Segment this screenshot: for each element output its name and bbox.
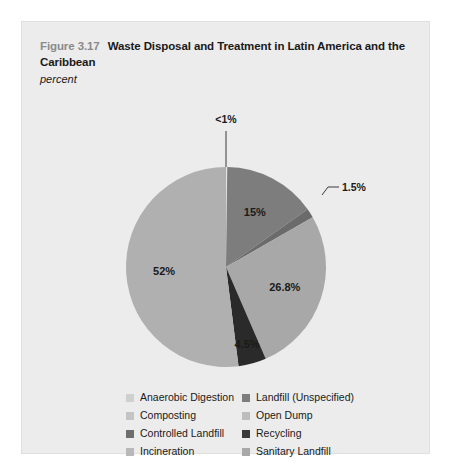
- leader-line-open-dump: [322, 187, 339, 195]
- legend-item-landfill-unspecified[interactable]: Landfill (Unspecified): [242, 390, 374, 405]
- legend-item-sanitary-landfill[interactable]: Sanitary Landfill: [242, 444, 374, 459]
- pie-slice-composting: [126, 167, 239, 367]
- figure-title-line: Figure 3.17Waste Disposal and Treatment …: [40, 38, 412, 70]
- legend-swatch-icon: [126, 448, 134, 456]
- pie-label-recycling: 4.5%: [235, 338, 260, 350]
- pie-chart: 15%26.8%4.5%52% <1% 1.5%: [22, 84, 429, 384]
- figure-number: Figure 3.17: [40, 40, 100, 52]
- legend-item-label: Controlled Landfill: [140, 426, 224, 441]
- legend-swatch-icon: [242, 448, 250, 456]
- figure-panel: Figure 3.17Waste Disposal and Treatment …: [21, 21, 430, 454]
- legend-item-incineration[interactable]: Incineration: [126, 444, 242, 459]
- legend-item-label: Open Dump: [256, 408, 313, 423]
- pie-label-landfill-unspecified: 15%: [244, 206, 266, 218]
- callout-label-anaerobic: <1%: [215, 113, 237, 125]
- pie-label-composting: 52%: [153, 265, 175, 277]
- legend-column-left: Anaerobic DigestionCompostingControlled …: [126, 390, 242, 462]
- legend-item-composting[interactable]: Composting: [126, 408, 242, 423]
- legend-swatch-icon: [126, 394, 134, 402]
- callout-label-open-dump: 1.5%: [342, 181, 367, 193]
- legend: Anaerobic DigestionCompostingControlled …: [126, 390, 376, 462]
- legend-item-open-dump[interactable]: Open Dump: [242, 408, 374, 423]
- legend-item-label: Incineration: [140, 444, 194, 459]
- legend-swatch-icon: [242, 394, 250, 402]
- legend-item-label: Composting: [140, 408, 196, 423]
- legend-item-label: Recycling: [256, 426, 302, 441]
- legend-item-label: Anaerobic Digestion: [140, 390, 234, 405]
- legend-item-recycling[interactable]: Recycling: [242, 426, 374, 441]
- pie-label-sanitary-landfill: 26.8%: [269, 281, 300, 293]
- pie-chart-svg: 15%26.8%4.5%52% <1% 1.5%: [22, 84, 429, 384]
- legend-item-controlled-landfill[interactable]: Controlled Landfill: [126, 426, 242, 441]
- figure-header: Figure 3.17Waste Disposal and Treatment …: [40, 38, 412, 85]
- legend-item-anaerobic-digestion[interactable]: Anaerobic Digestion: [126, 390, 242, 405]
- legend-swatch-icon: [126, 430, 134, 438]
- legend-swatch-icon: [242, 430, 250, 438]
- legend-item-label: Sanitary Landfill: [256, 444, 331, 459]
- legend-swatch-icon: [126, 412, 134, 420]
- legend-column-right: Landfill (Unspecified)Open DumpRecycling…: [242, 390, 374, 462]
- legend-swatch-icon: [242, 412, 250, 420]
- legend-item-label: Landfill (Unspecified): [256, 390, 354, 405]
